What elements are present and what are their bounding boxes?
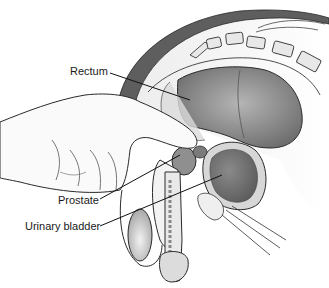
label-urinary-bladder: Urinary bladder <box>25 220 100 232</box>
label-rectum: Rectum <box>70 65 108 77</box>
urinary-bladder <box>198 142 286 255</box>
genitalia <box>120 160 188 282</box>
label-prostate: Prostate <box>58 194 99 206</box>
anatomy-illustration: Rectum Prostate Urinary bladder <box>0 0 329 288</box>
pelvis-diagram <box>0 0 329 288</box>
